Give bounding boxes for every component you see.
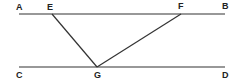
label-d: D bbox=[222, 70, 229, 80]
label-a: A bbox=[16, 2, 23, 12]
label-e: E bbox=[47, 2, 53, 12]
segment-fg bbox=[97, 14, 181, 67]
segment-eg bbox=[52, 14, 97, 67]
label-f: F bbox=[178, 1, 184, 11]
label-b: B bbox=[222, 1, 229, 11]
label-c: C bbox=[16, 70, 23, 80]
label-g: G bbox=[94, 70, 101, 80]
parallel-lines-diagram: A E F B C G D bbox=[0, 0, 241, 81]
